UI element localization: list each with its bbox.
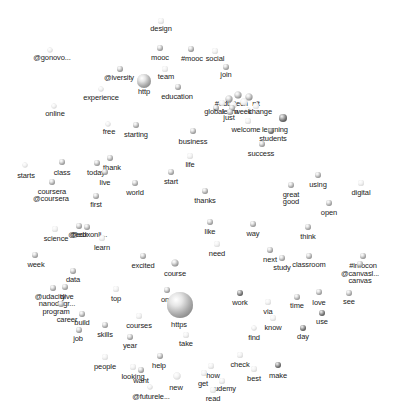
- node-sphere-icon[interactable]: [326, 200, 332, 206]
- node-sphere-icon[interactable]: [316, 289, 322, 295]
- node-sphere-icon[interactable]: [187, 153, 193, 159]
- node-sphere-icon[interactable]: [94, 160, 100, 166]
- node-sphere-icon[interactable]: [148, 385, 153, 390]
- node-sphere-icon[interactable]: [99, 87, 104, 92]
- node-sphere-icon[interactable]: [279, 255, 285, 261]
- node-sphere-icon[interactable]: [207, 219, 213, 225]
- node-sphere-icon[interactable]: [117, 66, 123, 72]
- node-sphere-icon[interactable]: [315, 172, 321, 178]
- node-sphere-icon[interactable]: [113, 286, 119, 292]
- node-sphere-icon[interactable]: [214, 241, 220, 247]
- node-label: help: [152, 362, 166, 370]
- node-sphere-icon[interactable]: [201, 370, 207, 376]
- node-label: mooc: [151, 54, 169, 62]
- node-label: digital: [352, 189, 371, 197]
- node-sphere-icon[interactable]: [237, 352, 243, 358]
- node-sphere-icon[interactable]: [52, 226, 58, 232]
- node-sphere-icon[interactable]: [79, 311, 85, 317]
- node-sphere-icon[interactable]: [107, 155, 113, 161]
- node-sphere-icon[interactable]: [210, 387, 216, 393]
- node-sphere-icon[interactable]: [50, 285, 56, 291]
- node-sphere-icon[interactable]: [93, 193, 99, 199]
- node-label: education: [161, 93, 193, 101]
- node-sphere-icon[interactable]: [265, 299, 271, 305]
- node-sphere-icon[interactable]: [306, 253, 312, 259]
- node-sphere-icon[interactable]: [190, 128, 196, 134]
- node-label: day: [297, 333, 309, 341]
- node-sphere-icon[interactable]: [219, 100, 225, 106]
- node-sphere-icon[interactable]: [23, 163, 28, 168]
- node-label: job: [73, 335, 83, 343]
- node-sphere-icon[interactable]: [99, 235, 105, 241]
- node-sphere-icon[interactable]: [288, 182, 294, 188]
- node-sphere-icon[interactable]: [360, 253, 366, 259]
- node-sphere-icon[interactable]: [172, 260, 179, 267]
- node-sphere-icon[interactable]: [48, 48, 53, 53]
- node-sphere-icon[interactable]: [52, 104, 57, 109]
- node-sphere-icon[interactable]: [76, 327, 82, 333]
- node-sphere-icon[interactable]: [319, 310, 325, 316]
- node-sphere-icon[interactable]: [188, 46, 194, 52]
- node-sphere-icon[interactable]: [346, 290, 352, 296]
- node-label: experience: [83, 94, 119, 102]
- node-sphere-icon[interactable]: [202, 188, 208, 194]
- node-sphere-icon[interactable]: [294, 294, 300, 300]
- node-sphere-icon[interactable]: [70, 268, 76, 274]
- node-sphere-icon[interactable]: [59, 159, 65, 165]
- node-sphere-icon[interactable]: [102, 169, 108, 175]
- node-sphere-icon[interactable]: [130, 364, 136, 370]
- node-sphere-icon[interactable]: [140, 253, 146, 259]
- node-sphere-icon[interactable]: [235, 92, 242, 99]
- node-sphere-icon[interactable]: [208, 363, 214, 369]
- node-sphere-icon[interactable]: [168, 169, 174, 175]
- node-sphere-icon[interactable]: [250, 221, 256, 227]
- node-label: check: [230, 361, 249, 369]
- node-sphere-icon[interactable]: [164, 287, 170, 293]
- node-sphere-icon[interactable]: [76, 223, 82, 229]
- node-sphere-icon[interactable]: [300, 325, 306, 331]
- node-sphere-icon[interactable]: [237, 290, 243, 296]
- node-sphere-icon[interactable]: [252, 326, 257, 331]
- node-sphere-icon[interactable]: [305, 224, 311, 230]
- node-sphere-icon[interactable]: [241, 99, 248, 106]
- node-sphere-icon[interactable]: [279, 114, 287, 122]
- node-sphere-icon[interactable]: [106, 122, 111, 127]
- node-sphere-icon[interactable]: [138, 367, 144, 373]
- node-label: people: [94, 363, 116, 371]
- node-sphere-icon[interactable]: [157, 45, 163, 51]
- node-sphere-icon[interactable]: [245, 118, 251, 124]
- node-sphere-icon[interactable]: [358, 180, 364, 186]
- node-sphere-icon[interactable]: [136, 313, 142, 319]
- node-label: like: [205, 228, 216, 236]
- node-sphere-icon[interactable]: [167, 292, 193, 318]
- node-sphere-icon[interactable]: [270, 315, 276, 321]
- node-sphere-icon[interactable]: [251, 366, 257, 372]
- node-sphere-icon[interactable]: [275, 362, 281, 368]
- node-label: best: [247, 375, 261, 383]
- node-label: first: [90, 201, 102, 209]
- node-sphere-icon[interactable]: [183, 332, 189, 338]
- node-sphere-icon[interactable]: [357, 261, 363, 267]
- node-label: https: [171, 321, 187, 329]
- node-label: take: [179, 340, 193, 348]
- node-sphere-icon[interactable]: [267, 247, 273, 253]
- node-sphere-icon[interactable]: [259, 141, 265, 147]
- node-sphere-icon[interactable]: [49, 179, 55, 185]
- node-label: how: [206, 372, 219, 380]
- node-sphere-icon[interactable]: [137, 74, 151, 88]
- node-label: free: [103, 128, 116, 136]
- node-sphere-icon[interactable]: [157, 353, 163, 359]
- node-sphere-icon[interactable]: [175, 84, 181, 90]
- node-sphere-icon[interactable]: [133, 122, 139, 128]
- node-sphere-icon[interactable]: [62, 284, 68, 290]
- node-sphere-icon[interactable]: [174, 373, 181, 380]
- node-sphere-icon[interactable]: [32, 252, 38, 258]
- node-sphere-icon[interactable]: [102, 322, 108, 328]
- node-label: @coursera: [33, 195, 69, 203]
- node-sphere-icon[interactable]: [127, 334, 133, 340]
- node-label: global: [204, 108, 223, 116]
- node-label: see: [343, 298, 355, 306]
- node-sphere-icon[interactable]: [102, 354, 108, 360]
- node-label: make: [269, 372, 287, 380]
- node-sphere-icon[interactable]: [132, 180, 138, 186]
